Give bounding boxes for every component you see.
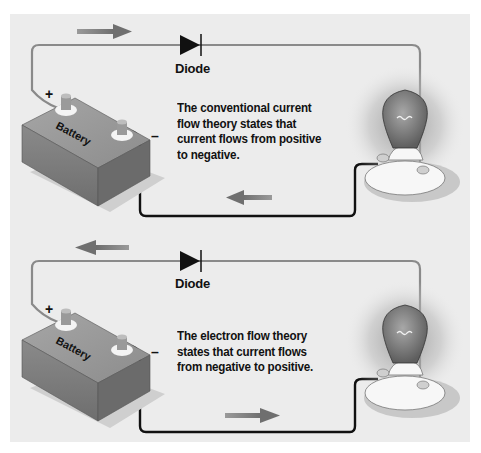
electron-flow-description: The electron flow theory states that cur… xyxy=(177,328,332,375)
negative-terminal-sign: – xyxy=(151,344,159,360)
conventional-flow-description: The conventional current flow theory sta… xyxy=(177,100,332,162)
diode-label: Diode xyxy=(175,61,210,76)
circuit-illustration: Battery Battery xyxy=(0,0,481,453)
positive-terminal-sign: + xyxy=(45,86,53,102)
positive-terminal-sign: + xyxy=(45,301,53,317)
diode-label: Diode xyxy=(175,276,210,291)
negative-terminal-sign: – xyxy=(151,128,159,144)
